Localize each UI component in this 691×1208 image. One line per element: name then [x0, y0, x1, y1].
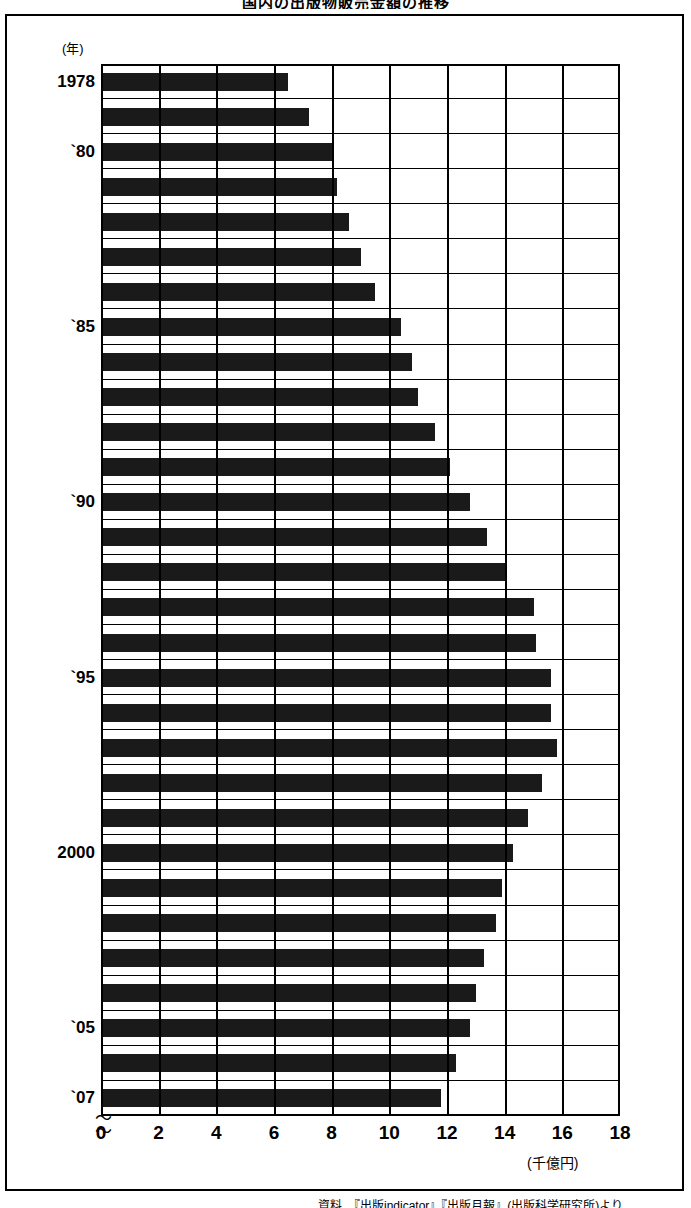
x-tick-label: 4 [211, 1122, 222, 1144]
x-tick-label: 10 [379, 1122, 400, 1144]
x-tick-label: 12 [436, 1122, 457, 1144]
x-tick-label: 14 [494, 1122, 515, 1144]
y-tick-label: `05 [70, 1018, 95, 1038]
y-tick-label: 1978 [57, 72, 95, 92]
source-note: 資料 『出版indicator』『出版月報』(出版科学研究所)より [318, 1196, 691, 1208]
x-axis-unit-label: (千億円) [527, 1152, 578, 1172]
x-tick-label: 0 [96, 1122, 107, 1144]
x-tick-label: 8 [326, 1122, 337, 1144]
x-tick-label: 16 [552, 1122, 573, 1144]
y-tick-label: `95 [70, 668, 95, 688]
figure-frame: (年) 1978`80`85`90`952000`05`07 〜〜 024681… [5, 14, 684, 1191]
y-tick-label: `85 [70, 317, 95, 337]
x-axis-tick-labels: 024681012141618 [101, 1122, 661, 1148]
chart-title: 国内の出版物販売金額の推移 [0, 0, 691, 9]
plot-border [101, 64, 620, 1116]
x-tick-label: 6 [269, 1122, 280, 1144]
y-tick-label: `90 [70, 492, 95, 512]
x-tick-label: 18 [609, 1122, 630, 1144]
plot-area [101, 64, 620, 1116]
x-tick-label: 2 [153, 1122, 164, 1144]
y-tick-label: `07 [70, 1088, 95, 1108]
y-axis-unit-label: (年) [62, 38, 84, 57]
y-axis-tick-labels: 1978`80`85`90`952000`05`07 [7, 64, 95, 1116]
y-tick-label: `80 [70, 142, 95, 162]
y-tick-label: 2000 [57, 843, 95, 863]
